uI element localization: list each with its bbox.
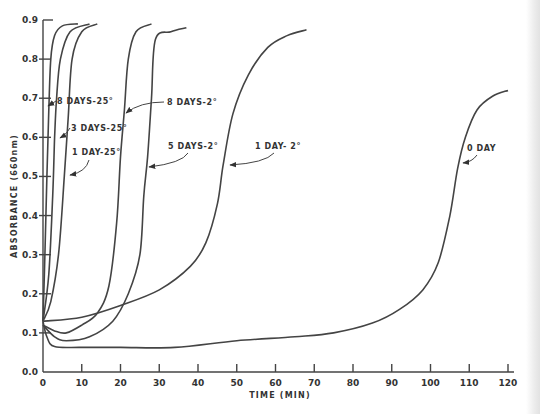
x-tick-label: 100 xyxy=(421,378,440,388)
y-tick-label: 0.3 xyxy=(22,250,38,260)
x-tick-label: 10 xyxy=(75,378,88,388)
arrow-8-days-2 xyxy=(126,102,164,113)
arrow-5-days-2 xyxy=(149,153,188,167)
arrow-3-days-25 xyxy=(60,128,70,138)
axes: 01020304050607080901001101200.00.10.20.3… xyxy=(22,15,517,388)
annotation-3-days-25: 3 DAYS-25° xyxy=(71,124,127,133)
x-tick-label: 120 xyxy=(499,378,518,388)
arrow-0-day xyxy=(463,155,477,163)
annotation-8-days-2: 8 DAYS-2° xyxy=(167,98,217,107)
y-tick-label: 0.0 xyxy=(22,367,38,377)
x-axis-title: TIME (MIN) xyxy=(249,391,311,400)
x-tick-label: 20 xyxy=(114,378,127,388)
curve-1-day-25 xyxy=(43,24,97,321)
curves xyxy=(43,24,508,348)
curve-1-day-2 xyxy=(43,30,307,321)
annotations: 8 DAYS-25° 3 DAYS-25° 1 DAY-25° 8 DAYS-2… xyxy=(48,97,496,175)
absorbance-chart: 01020304050607080901001101200.00.10.20.3… xyxy=(0,0,540,414)
annotation-0-day: 0 DAY xyxy=(467,144,496,153)
annotation-5-days-2: 5 DAYS-2° xyxy=(168,142,218,151)
arrow-1-day-25 xyxy=(70,160,89,175)
y-tick-label: 0.8 xyxy=(22,54,38,64)
x-tick-label: 30 xyxy=(153,378,166,388)
y-tick-label: 0.4 xyxy=(22,211,38,221)
y-tick-label: 0.1 xyxy=(22,328,38,338)
annotation-1-day-25: 1 DAY-25° xyxy=(72,148,121,157)
y-tick-label: 0.7 xyxy=(22,93,38,103)
x-tick-label: 0 xyxy=(40,378,46,388)
page-edge-shadow xyxy=(526,0,540,414)
y-tick-label: 0.9 xyxy=(22,15,38,25)
annotation-8-days-25: 8 DAYS-25° xyxy=(57,97,113,106)
x-tick-label: 110 xyxy=(460,378,479,388)
x-tick-label: 40 xyxy=(192,378,205,388)
x-tick-label: 80 xyxy=(347,378,360,388)
y-tick-label: 0.2 xyxy=(22,289,38,299)
x-tick-label: 50 xyxy=(230,378,243,388)
arrow-1-day-2 xyxy=(230,153,274,165)
annotation-1-day-2: 1 DAY- 2° xyxy=(255,142,301,151)
x-tick-label: 90 xyxy=(385,378,398,388)
y-axis-title: ABSORBANCE (660nm) xyxy=(10,134,19,258)
x-tick-label: 70 xyxy=(308,378,321,388)
y-tick-label: 0.5 xyxy=(22,171,38,181)
y-tick-label: 0.6 xyxy=(22,132,38,142)
x-tick-label: 60 xyxy=(269,378,282,388)
